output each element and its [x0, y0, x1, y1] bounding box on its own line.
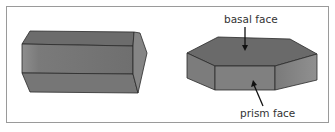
basal-face-label: basal face	[224, 13, 278, 25]
hexagonal-plate	[187, 37, 317, 90]
prism-front-face	[22, 44, 133, 74]
prism-top-face	[22, 31, 134, 46]
prism-bottom-face	[22, 73, 138, 93]
prism-face-label: prism face	[240, 107, 295, 119]
front-prism-face	[215, 66, 275, 90]
columnar-prism	[22, 31, 147, 93]
